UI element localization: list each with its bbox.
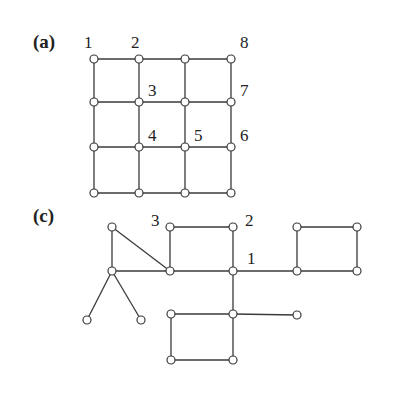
node-circle-icon [353, 223, 361, 231]
node-label: 5 [194, 126, 203, 145]
panel-a-edges [94, 59, 231, 193]
node-circle-icon [108, 223, 116, 231]
node-label: 6 [240, 126, 249, 145]
panel-a-grid-graph: 12837456 (a) [33, 31, 249, 197]
node-circle-icon [181, 55, 189, 63]
panel-c-edges [87, 227, 357, 360]
panel-a-nodes [90, 55, 235, 197]
node-circle-icon [293, 223, 301, 231]
node-label: 3 [148, 81, 157, 100]
panel-c-label: (c) [33, 205, 54, 227]
node-circle-icon [181, 98, 189, 106]
node-circle-icon [167, 356, 175, 364]
edge [233, 314, 297, 315]
panel-c-node-labels: 321 [151, 211, 256, 268]
node-label: 1 [247, 249, 256, 268]
node-circle-icon [137, 316, 145, 324]
node-circle-icon [181, 189, 189, 197]
node-circle-icon [229, 310, 237, 318]
node-label: 2 [245, 211, 254, 230]
node-circle-icon [181, 143, 189, 151]
edge [112, 271, 141, 320]
panel-a-node-labels: 12837456 [84, 33, 249, 145]
node-circle-icon [83, 316, 91, 324]
node-circle-icon [135, 143, 143, 151]
node-label: 2 [131, 33, 140, 52]
node-circle-icon [227, 143, 235, 151]
node-label: 7 [240, 81, 249, 100]
node-circle-icon [227, 98, 235, 106]
edge [112, 227, 170, 271]
node-circle-icon [90, 55, 98, 63]
node-circle-icon [229, 223, 237, 231]
node-circle-icon [229, 267, 237, 275]
node-label: 3 [151, 211, 160, 230]
panel-a-label: (a) [33, 31, 55, 53]
node-circle-icon [135, 98, 143, 106]
node-circle-icon [229, 356, 237, 364]
node-circle-icon [167, 310, 175, 318]
node-circle-icon [293, 267, 301, 275]
node-circle-icon [90, 98, 98, 106]
panel-c-tree-graph: 321 (c) [33, 205, 361, 364]
node-circle-icon [166, 223, 174, 231]
node-circle-icon [227, 189, 235, 197]
node-circle-icon [353, 267, 361, 275]
node-circle-icon [135, 55, 143, 63]
node-circle-icon [90, 143, 98, 151]
node-label: 4 [148, 126, 157, 145]
node-label: 1 [84, 33, 93, 52]
node-circle-icon [90, 189, 98, 197]
node-circle-icon [108, 267, 116, 275]
node-circle-icon [166, 267, 174, 275]
node-circle-icon [227, 55, 235, 63]
edge [87, 271, 112, 320]
node-circle-icon [293, 311, 301, 319]
node-label: 8 [240, 33, 249, 52]
graph-figure: 12837456 (a) 321 (c) [0, 0, 393, 401]
node-circle-icon [135, 189, 143, 197]
